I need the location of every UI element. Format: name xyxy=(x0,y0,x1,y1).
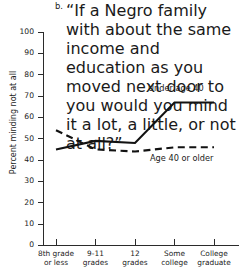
series-label-under-age-40: Under age 40 xyxy=(148,84,204,93)
series-plot xyxy=(0,0,239,278)
series-label-age-40-or-older: Age 40 or older xyxy=(150,154,213,163)
series-age-40-or-older-line xyxy=(56,130,214,151)
chart-figure: b. “If a Negro family with about the sam… xyxy=(0,0,239,278)
